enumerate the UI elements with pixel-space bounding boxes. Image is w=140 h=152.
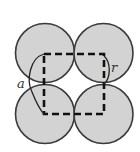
label-a: a (17, 76, 25, 91)
circles (16, 24, 134, 144)
four-circles-diagram: a r (0, 0, 140, 152)
label-r: r (111, 60, 118, 75)
